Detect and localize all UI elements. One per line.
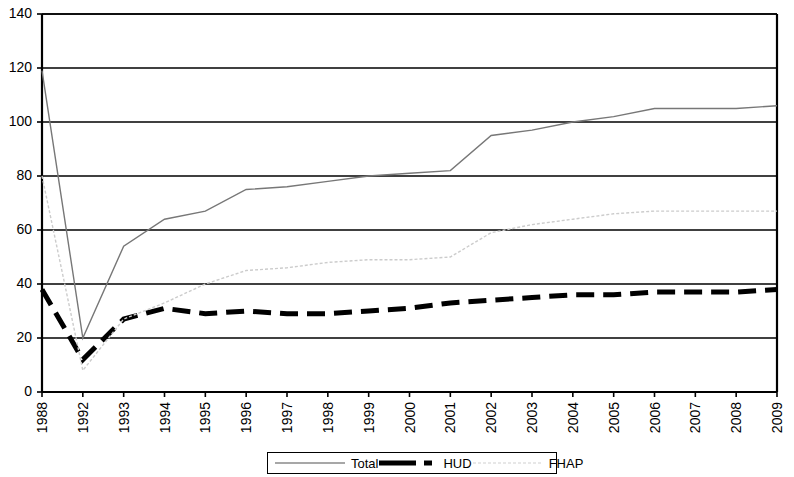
y-tick-label: 0: [2, 384, 32, 398]
x-tick-label: 1997: [280, 402, 294, 433]
x-tick-label: 2008: [729, 402, 743, 433]
x-tick-label: 1994: [158, 402, 172, 433]
series-line-fhap: [42, 176, 777, 370]
legend-swatch-fhap-dotted-icon: [472, 458, 544, 468]
series-line-hud: [42, 289, 777, 359]
legend-item-hud: HUD: [378, 457, 471, 470]
x-tick-label: 1998: [321, 402, 335, 433]
legend-swatch-total-line-icon: [274, 458, 346, 468]
y-tick-label: 100: [2, 114, 32, 128]
y-tick-label: 120: [2, 60, 32, 74]
x-tick-label: 2002: [484, 402, 498, 433]
x-tick-label: 1992: [76, 402, 90, 433]
x-tick-label: 2009: [770, 402, 784, 433]
y-tick-label: 80: [2, 168, 32, 182]
y-tick-label: 140: [2, 6, 32, 20]
x-tick-label: 2005: [607, 402, 621, 433]
y-tick-label: 40: [2, 276, 32, 290]
y-tick-label: 60: [2, 222, 32, 236]
x-tick-label: 2006: [648, 402, 662, 433]
x-tick-label: 1988: [35, 402, 49, 433]
legend-item-fhap: FHAP: [472, 457, 584, 470]
y-tick-label: 20: [2, 330, 32, 344]
line-chart: 020406080100120140 198819921993199419951…: [0, 0, 794, 477]
x-tick-label: 2000: [403, 402, 417, 433]
x-tick-label: 1995: [198, 402, 212, 433]
x-tick-label: 1999: [362, 402, 376, 433]
legend-item-total: Total: [274, 457, 378, 470]
legend-label-total: Total: [351, 457, 378, 470]
chart-legend: Total HUD FHAP: [267, 452, 557, 474]
legend-label-hud: HUD: [443, 457, 471, 470]
legend-swatch-hud-dash-icon: [378, 458, 438, 468]
x-tick-label: 2001: [443, 402, 457, 433]
x-tick-label: 2007: [688, 402, 702, 433]
x-tick-label: 2004: [566, 402, 580, 433]
legend-label-fhap: FHAP: [549, 457, 584, 470]
x-tick-label: 1993: [117, 402, 131, 433]
series-line-total: [42, 71, 777, 338]
x-tick-label: 1996: [239, 402, 253, 433]
x-tick-label: 2003: [525, 402, 539, 433]
